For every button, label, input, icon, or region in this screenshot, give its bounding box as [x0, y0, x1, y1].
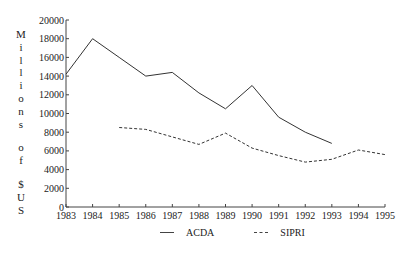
y-axis-label: Millionsof$US [16, 28, 26, 216]
svg-text:s: s [19, 118, 23, 130]
svg-text:1986: 1986 [136, 210, 156, 221]
svg-text:16000: 16000 [39, 52, 64, 63]
svg-text:1988: 1988 [189, 210, 209, 221]
dashed-line-swatch-icon [254, 232, 268, 233]
svg-text:U: U [17, 191, 25, 203]
svg-text:M: M [16, 28, 26, 40]
svg-text:18000: 18000 [39, 33, 64, 44]
svg-text:l: l [19, 54, 22, 66]
x-axis: 1983198419851986198719881989199019911992… [56, 204, 395, 221]
svg-text:1990: 1990 [242, 210, 262, 221]
svg-text:n: n [18, 105, 24, 117]
legend-label: ACDA [186, 227, 214, 238]
svg-text:1984: 1984 [83, 210, 103, 221]
svg-text:S: S [18, 204, 24, 216]
svg-text:1989: 1989 [216, 210, 236, 221]
svg-text:14000: 14000 [39, 71, 64, 82]
svg-text:1985: 1985 [109, 210, 129, 221]
svg-text:20000: 20000 [39, 15, 64, 26]
svg-text:12000: 12000 [39, 89, 64, 100]
svg-text:i: i [19, 79, 22, 91]
svg-text:f: f [19, 154, 23, 166]
svg-text:i: i [19, 41, 22, 53]
svg-text:1991: 1991 [269, 210, 289, 221]
plot-lines [66, 39, 385, 162]
svg-text:4000: 4000 [44, 164, 64, 175]
svg-text:1992: 1992 [295, 210, 315, 221]
svg-text:6000: 6000 [44, 145, 64, 156]
svg-text:o: o [18, 141, 24, 153]
svg-text:1994: 1994 [348, 210, 368, 221]
svg-text:10000: 10000 [39, 108, 64, 119]
svg-text:8000: 8000 [44, 127, 64, 138]
legend-item-acda: ACDA [160, 227, 214, 238]
svg-text:1983: 1983 [56, 210, 76, 221]
svg-text:l: l [19, 66, 22, 78]
svg-text:o: o [18, 92, 24, 104]
line-chart: Millionsof$US 02000400060008000100001200… [0, 0, 413, 253]
svg-text:2000: 2000 [44, 183, 64, 194]
legend: ACDA SIPRI [160, 227, 305, 238]
y-axis: 0200040006000800010000120001400016000180… [39, 15, 69, 213]
svg-text:1993: 1993 [322, 210, 342, 221]
svg-text:$: $ [18, 178, 24, 190]
svg-text:1987: 1987 [162, 210, 182, 221]
legend-item-sipri: SIPRI [254, 227, 304, 238]
legend-label: SIPRI [280, 227, 304, 238]
svg-text:1995: 1995 [375, 210, 395, 221]
solid-line-swatch-icon [160, 232, 174, 233]
